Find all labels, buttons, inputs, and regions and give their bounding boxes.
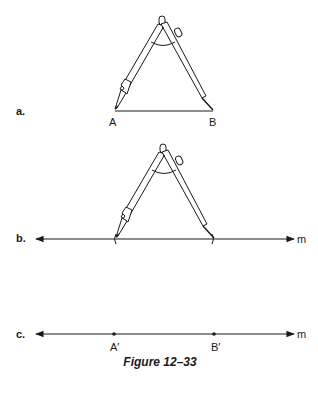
point-a-prime: [112, 332, 116, 336]
point-a-prime-label: A′: [110, 341, 119, 353]
part-a-label: a.: [16, 105, 25, 117]
point-b-label: B: [209, 116, 216, 128]
line-m-label: m: [297, 328, 306, 340]
point-a-label: A: [109, 116, 117, 128]
compass-icon: [116, 144, 214, 238]
line-m-label: m: [297, 233, 306, 245]
part-c: c. m A′ B′: [16, 328, 306, 353]
point-b-prime-label: B′: [211, 341, 220, 353]
compass-icon: [115, 16, 213, 110]
figure-caption: Figure 12–33: [123, 355, 197, 369]
point-b-prime: [212, 332, 216, 336]
part-a: a. A B: [16, 16, 216, 128]
figure-canvas: a. A B b. m c. m A′ B′ Figure 12–33: [0, 0, 318, 397]
part-c-label: c.: [16, 328, 25, 340]
part-b: b. m: [16, 144, 306, 245]
part-b-label: b.: [16, 232, 26, 244]
